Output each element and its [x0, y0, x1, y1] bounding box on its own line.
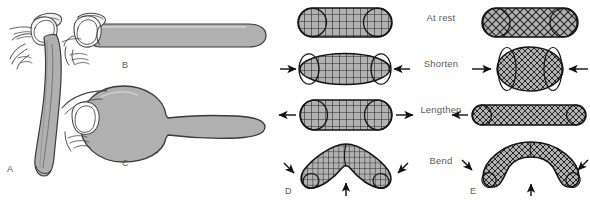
deflated-balloon-body [35, 35, 61, 176]
e-lengthen-cylinder [472, 105, 586, 125]
panel-c-illustration [60, 82, 275, 162]
figure-canvas: A B [0, 0, 590, 205]
thumbnail-b [77, 20, 97, 45]
panel-letter-c: C [122, 158, 129, 168]
e-at-rest-cylinder [482, 8, 578, 37]
panel-letter-e: E [470, 186, 477, 196]
d-at-rest-cylinder [298, 8, 392, 37]
bulbous-balloon [80, 86, 265, 162]
e-shorten-cylinder [497, 47, 563, 91]
thumbnail-c [75, 106, 95, 133]
e-bend-cylinder [479, 142, 583, 190]
mesh-diagram-area [276, 0, 590, 205]
panel-letter-a: A [7, 164, 14, 174]
panel-letter-d: D [285, 186, 292, 196]
panel-letter-b: B [122, 60, 129, 70]
d-lengthen-cylinder [300, 100, 392, 130]
panel-b-illustration [60, 8, 275, 70]
d-shorten-cylinder [299, 54, 391, 85]
